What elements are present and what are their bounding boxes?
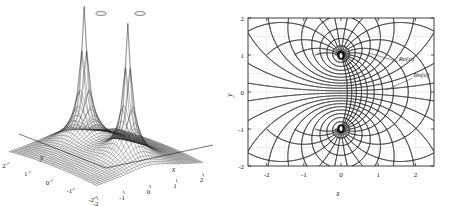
contour-y-tick-label: 1 [241, 52, 245, 60]
contour-y-tick-label: -1 [238, 126, 244, 134]
surface-x-tick-label: 0 [147, 188, 151, 196]
contour-plot-panel: Re(u)Im(u) -2-1012-2-1012 x y [226, 0, 452, 206]
contour-x-axis-label: x [335, 189, 340, 198]
contour-plot-svg: Re(u)Im(u) -2-1012-2-1012 x y [226, 0, 452, 206]
contour-x-tick-label: 0 [339, 171, 343, 179]
surface-y-tick-label: 2 [2, 162, 6, 170]
surface-x-tick-label: -1 [119, 194, 125, 202]
surface-x-tick-label: 2 [200, 176, 204, 184]
surface-x-tick-label: 1 [173, 182, 177, 190]
surface-mesh [9, 7, 202, 186]
contour-y-tick-label: 2 [241, 15, 245, 23]
contour-y-tick-label: 0 [241, 89, 245, 97]
surface-x-axis-label: x [171, 165, 176, 174]
contour-annotation-re: Re(u) [398, 55, 415, 63]
spike-caps [96, 11, 145, 15]
contour-x-tick-label: 1 [376, 171, 380, 179]
surface-y-tick-label: -2 [88, 196, 94, 204]
contour-grid [248, 18, 434, 166]
pole-markers [338, 51, 345, 132]
surface-y-tick-label: -1 [66, 187, 72, 195]
surface-y-tick-label: 1 [24, 170, 28, 178]
contour-x-tick-label: -1 [301, 171, 307, 179]
surface-y-axis-label: y [39, 153, 44, 162]
contour-x-tick-label: 2 [414, 171, 418, 179]
contour-x-tick-label: -2 [264, 171, 270, 179]
surface-y-tick-label: 0 [46, 179, 50, 187]
contour-y-axis-label: y [226, 93, 234, 98]
contour-tick-labels: -2-1012-2-1012 [238, 15, 417, 179]
figure-container: -2-1012210-1-2 y x [0, 0, 452, 206]
contour-annotations: Re(u)Im(u) [398, 55, 430, 80]
contour-annotation-im: Im(u) [413, 71, 430, 79]
surface-plot-panel: -2-1012210-1-2 y x [0, 0, 226, 206]
surface-plot-svg: -2-1012210-1-2 y x [0, 0, 226, 206]
contour-y-tick-label: -2 [238, 163, 244, 171]
